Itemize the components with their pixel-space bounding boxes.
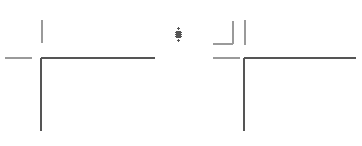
drawing-canvas[interactable]	[0, 0, 362, 146]
line-group	[5, 20, 356, 131]
drawing-lines-layer	[0, 0, 362, 146]
